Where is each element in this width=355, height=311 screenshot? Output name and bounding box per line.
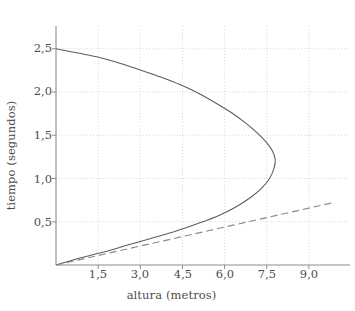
series-line-solid <box>56 49 275 265</box>
data-series <box>56 49 333 265</box>
series-line-dashed <box>56 203 333 265</box>
axis-lines <box>56 26 350 265</box>
plot-area <box>0 0 355 311</box>
chart-figure: tiempo (segundos) 2,5 2,0 1,5 1,0 0,5 1,… <box>0 0 355 311</box>
